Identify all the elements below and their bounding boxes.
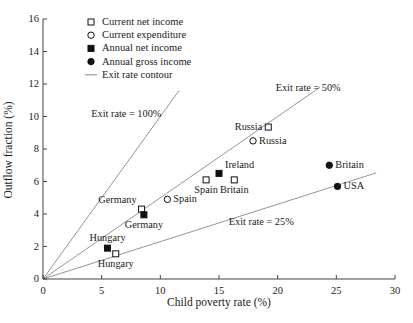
y-tick-label-6: 6: [34, 176, 39, 187]
contour-line-1: [43, 87, 320, 279]
data-point-0-3: [231, 177, 237, 183]
x-tick-label-5: 5: [99, 286, 104, 297]
legend-marker-open-square: [88, 19, 94, 25]
y-tick-label-4: 4: [34, 209, 39, 220]
data-point-2-1: [141, 212, 147, 218]
point-label-current-expenditure-spain: Spain: [173, 194, 196, 204]
data-point-2-0: [105, 245, 111, 251]
point-label-annual-gross-income-usa: USA: [344, 181, 365, 191]
point-label-current-net-income-germany: Germany: [98, 195, 136, 205]
legend-label-1: Current expenditure: [102, 30, 186, 41]
legend-marker-open-circle: [88, 32, 94, 38]
data-point-0-4: [265, 124, 271, 130]
x-tick-label-25: 25: [331, 286, 342, 297]
point-label-current-net-income-russia: Russia: [235, 122, 262, 132]
legend-label-3: Annual gross income: [102, 56, 191, 67]
data-point-1-0: [164, 196, 170, 202]
y-tick-label-8: 8: [34, 144, 39, 155]
chart-figure: Exit rate = 100%Exit rate = 50%Exit rate…: [0, 0, 413, 323]
data-point-2-2: [216, 170, 222, 176]
y-tick-label-16: 16: [29, 14, 40, 25]
legend-label-4: Exit rate contour: [102, 70, 173, 81]
contour-label-2: Exit rate = 25%: [229, 217, 294, 227]
point-label-annual-net-income-hungary: Hungary: [90, 233, 126, 243]
data-point-1-1: [250, 138, 256, 144]
x-tick-label-15: 15: [214, 286, 225, 297]
y-tick-label-12: 12: [29, 79, 40, 90]
x-tick-label-0: 0: [40, 286, 45, 297]
legend-label-0: Current net income: [102, 17, 183, 28]
point-label-annual-net-income-ireland: Ireland: [225, 160, 254, 170]
y-tick-label-0: 0: [34, 274, 39, 285]
contour-label-0: Exit rate = 100%: [91, 109, 161, 119]
point-label-current-net-income-hungary: Hungary: [98, 259, 134, 269]
legend: [85, 19, 97, 75]
contour-label-1: Exit rate = 50%: [276, 83, 341, 93]
point-label-current-net-income-britain: Britain: [220, 185, 249, 195]
point-label-annual-net-income-germany: Germany: [125, 220, 163, 230]
data-point-3-0: [326, 162, 332, 168]
legend-marker-filled-square: [88, 45, 94, 51]
legend-label-2: Annual net income: [102, 43, 182, 54]
x-tick-label-20: 20: [272, 286, 283, 297]
point-label-annual-gross-income-britain: Britain: [335, 160, 364, 170]
x-tick-label-30: 30: [390, 286, 401, 297]
data-point-0-1: [139, 206, 145, 212]
point-label-current-net-income-spain: Spain: [194, 185, 217, 195]
legend-marker-filled-circle: [88, 58, 94, 64]
data-point-3-1: [334, 183, 340, 189]
y-tick-label-10: 10: [29, 111, 40, 122]
y-axis-title: Outflow fraction (%): [3, 101, 15, 198]
data-point-0-2: [203, 177, 209, 183]
y-tick-label-2: 2: [34, 241, 39, 252]
point-label-current-expenditure-russia: Russia: [259, 136, 286, 146]
x-axis-title: Child poverty rate (%): [167, 297, 271, 309]
y-tick-label-14: 14: [29, 46, 40, 57]
x-tick-label-10: 10: [155, 286, 166, 297]
data-point-0-0: [113, 251, 119, 257]
